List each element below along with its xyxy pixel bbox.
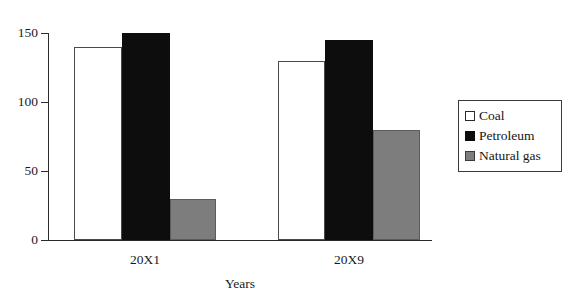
y-tick-mark — [41, 240, 48, 241]
bar-coal-20X9[interactable] — [278, 61, 325, 240]
legend-label: Natural gas — [479, 149, 541, 163]
legend-item-coal[interactable]: Coal — [465, 106, 556, 126]
legend-label: Petroleum — [479, 129, 535, 143]
bar-petroleum-20X1[interactable] — [122, 33, 170, 240]
x-category-label-20X1: 20X1 — [115, 253, 175, 267]
petroleum-swatch-icon — [465, 131, 475, 141]
bar-chart: 150 100 50 0 20X1 20X9 Years Coal P — [0, 0, 571, 300]
bar-natural-gas-20X1[interactable] — [170, 199, 216, 240]
x-axis-title: Years — [0, 277, 480, 291]
legend-label: Coal — [479, 109, 505, 123]
bar-petroleum-20X9[interactable] — [325, 40, 373, 240]
x-axis-line — [48, 240, 432, 241]
bar-coal-20X1[interactable] — [74, 47, 122, 240]
natural-gas-swatch-icon — [465, 151, 475, 161]
legend-item-petroleum[interactable]: Petroleum — [465, 126, 556, 146]
x-category-label-20X9: 20X9 — [319, 253, 379, 267]
coal-swatch-icon — [465, 111, 475, 121]
legend: Coal Petroleum Natural gas — [458, 100, 562, 172]
legend-item-natural-gas[interactable]: Natural gas — [465, 146, 556, 166]
bar-natural-gas-20X9[interactable] — [373, 130, 420, 240]
